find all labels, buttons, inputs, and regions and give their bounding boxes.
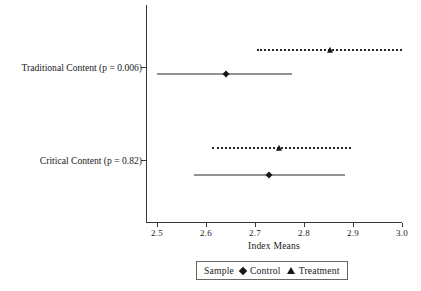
x-axis-title: Index Means — [146, 240, 402, 251]
y-axis-line — [146, 5, 147, 222]
x-tick-label-4: 2.8 — [298, 228, 310, 238]
x-tick-label-3: 2.7 — [249, 228, 261, 238]
category-label-critical: Critical Content (p = 0.82) — [40, 155, 142, 166]
triangle-icon — [327, 47, 333, 53]
legend: Sample Control Treatment — [196, 261, 348, 280]
legend-item-treatment: Treatment — [287, 265, 340, 276]
x-tick-mark — [255, 223, 256, 227]
diamond-icon — [265, 171, 272, 178]
triangle-icon — [276, 145, 282, 151]
diamond-icon — [222, 70, 229, 77]
x-tick-label-2: 2.6 — [200, 228, 212, 238]
x-tick-mark — [402, 223, 403, 227]
x-tick-label-1: 2.5 — [151, 228, 163, 238]
diamond-icon — [239, 266, 247, 274]
x-axis-line — [146, 222, 402, 223]
x-tick-mark — [157, 223, 158, 227]
forest-plot-chart: 2.5 2.6 2.7 2.8 2.9 3.0 Traditional Cont… — [0, 0, 421, 291]
x-tick-label-5: 2.9 — [347, 228, 359, 238]
category-label-traditional: Traditional Content (p = 0.006) — [22, 62, 142, 73]
x-tick-mark — [304, 223, 305, 227]
legend-title: Sample — [204, 265, 234, 276]
legend-label-control: Control — [250, 265, 281, 276]
triangle-icon — [287, 267, 295, 274]
legend-item-control: Control — [240, 265, 281, 276]
legend-label-treatment: Treatment — [299, 265, 340, 276]
x-tick-mark — [353, 223, 354, 227]
x-tick-mark — [206, 223, 207, 227]
x-tick-label-6: 3.0 — [396, 228, 408, 238]
